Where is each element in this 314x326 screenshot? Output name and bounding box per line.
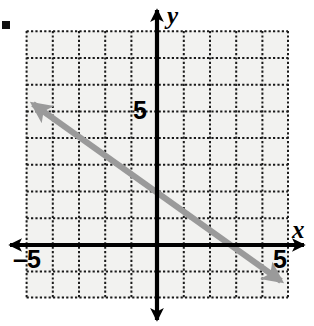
coordinate-plane-figure: 5 –5 5 y x [0, 0, 314, 326]
y-axis-name-label: y [167, 3, 178, 28]
y-axis-tick-label-5: 5 [133, 98, 147, 123]
x-axis-name-label: x [292, 217, 305, 242]
x-axis-tick-label-5: 5 [273, 247, 287, 272]
x-axis-tick-label-negative-5: –5 [13, 247, 41, 272]
axes [0, 0, 314, 326]
